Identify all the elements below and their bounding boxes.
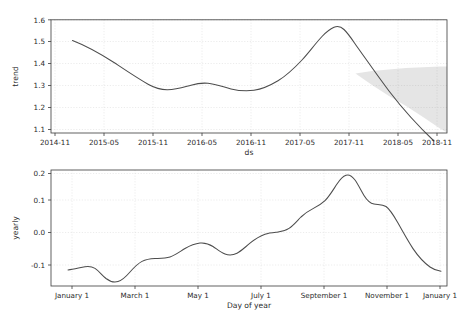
trend-ytick-label: 1.3 (34, 81, 45, 90)
trend-ytick-label: 1.2 (34, 103, 45, 112)
yearly-y-tickmarks (48, 174, 51, 266)
trend-ytick-label: 1.4 (34, 59, 46, 68)
trend-ytick-label: 1.1 (34, 125, 45, 134)
yearly-xtick-label: November 1 (365, 291, 409, 300)
yearly-x-axis-title: Day of year (227, 301, 272, 310)
yearly-ytick-label: 0.0 (34, 228, 46, 237)
yearly-xtick-label: May 1 (187, 291, 209, 300)
yearly-gridlines (51, 170, 447, 286)
trend-xtick-label: 2015-05 (89, 138, 119, 147)
trend-xtick-label: 2018-11 (422, 138, 452, 147)
trend-axes: 1.1 1.2 1.3 1.4 1.5 1.6 2014-11 2015-05 … (11, 16, 452, 158)
trend-uncertainty-band (356, 66, 448, 132)
yearly-xtick-label: July 1 (250, 291, 271, 300)
trend-ytick-label: 1.5 (34, 37, 45, 46)
yearly-xtick-label: January 1 (54, 291, 89, 300)
trend-x-axis-title: ds (245, 148, 254, 157)
trend-xtick-label: 2017-05 (285, 138, 315, 147)
trend-xtick-label: 2015-11 (138, 138, 168, 147)
yearly-x-tickmarks (72, 286, 440, 289)
yearly-xtick-label: January 1 (422, 291, 457, 300)
prophet-components-figure: 1.1 1.2 1.3 1.4 1.5 1.6 2014-11 2015-05 … (0, 0, 475, 328)
trend-y-tickmarks (48, 20, 51, 130)
yearly-y-axis-title: yearly (11, 216, 20, 240)
trend-ytick-label: 1.6 (34, 16, 46, 25)
yearly-ytick-label: -0.1 (31, 261, 45, 270)
yearly-ytick-label: 0.2 (34, 169, 45, 178)
trend-xtick-label: 2016-05 (187, 138, 217, 147)
trend-xtick-label: 2016-11 (236, 138, 266, 147)
yearly-line (68, 175, 441, 282)
yearly-ytick-label: 0.1 (34, 196, 45, 205)
yearly-xtick-label: March 1 (121, 291, 150, 300)
yearly-xtick-label: September 1 (301, 291, 348, 300)
trend-x-tickmarks (55, 133, 437, 136)
trend-y-axis-title: trend (11, 66, 20, 86)
yearly-plot-frame (51, 170, 447, 286)
yearly-axes: -0.1 0.0 0.1 0.2 January 1 March 1 May 1… (11, 169, 457, 310)
trend-xtick-label: 2018-05 (383, 138, 413, 147)
trend-xtick-label: 2014-11 (40, 138, 70, 147)
figure-canvas: 1.1 1.2 1.3 1.4 1.5 1.6 2014-11 2015-05 … (0, 0, 475, 328)
trend-xtick-label: 2017-11 (334, 138, 364, 147)
